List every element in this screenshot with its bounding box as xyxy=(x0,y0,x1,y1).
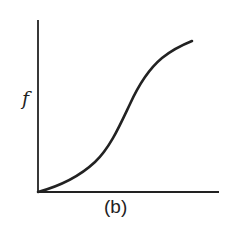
sigmoid-plot xyxy=(0,0,227,228)
figure-caption: (b) xyxy=(104,196,127,218)
sigmoid-curve xyxy=(38,41,192,192)
y-axis-label: f xyxy=(22,87,29,109)
